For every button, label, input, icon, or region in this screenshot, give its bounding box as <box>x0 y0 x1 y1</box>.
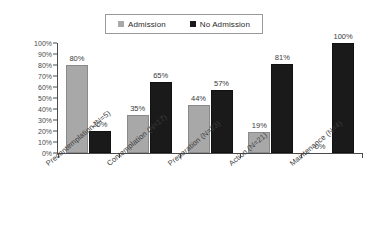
x-axis-category-label: Contemplation (N=17) <box>105 112 169 167</box>
x-axis-category-labels: Precontemplation (N=5)Contemplation (N=1… <box>0 0 370 242</box>
x-axis-category-label: Maintenance (N=4) <box>288 119 344 168</box>
x-axis-category-label: Preparation (N=23) <box>166 119 222 168</box>
x-axis-category-label: Action (N=21) <box>227 131 269 168</box>
x-axis-category-label: Precontemplation (N=5) <box>44 109 112 168</box>
bar-chart: Admission No Admission 0%10%20%30%40%50%… <box>0 0 370 242</box>
